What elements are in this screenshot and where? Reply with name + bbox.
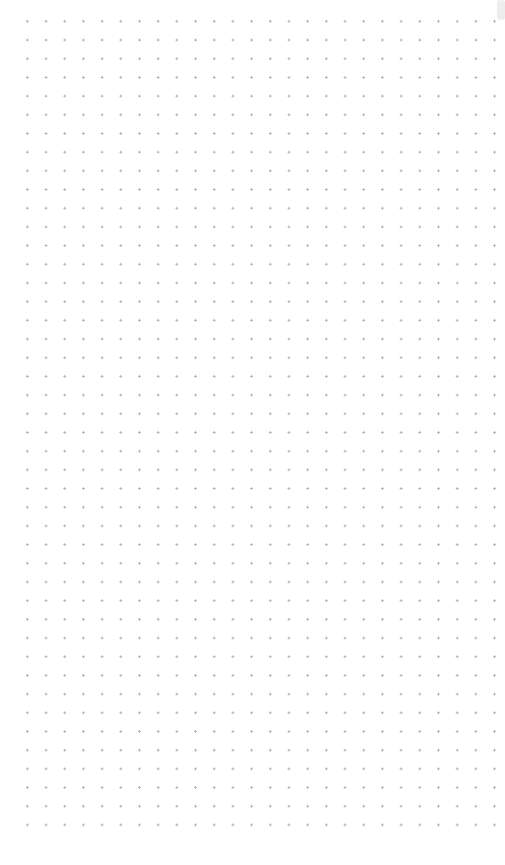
drawing-canvas[interactable] xyxy=(0,0,505,865)
dot-grid-background xyxy=(18,12,500,830)
scrollbar-thumb[interactable] xyxy=(497,0,505,20)
